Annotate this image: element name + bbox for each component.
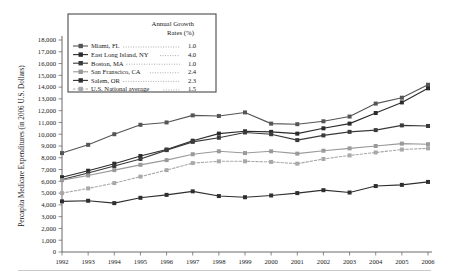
series-marker: [400, 183, 404, 187]
series-marker: [243, 151, 247, 155]
series-marker: [138, 175, 142, 179]
x-tick-label: 2004: [369, 258, 383, 265]
series-marker: [348, 153, 352, 157]
series-marker: [86, 173, 90, 177]
series-marker: [112, 164, 116, 168]
y-tick-label: 11,000: [38, 119, 57, 126]
y-tick-label: 2,000: [41, 225, 57, 232]
x-tick-label: 1994: [108, 258, 122, 265]
series-marker: [321, 149, 325, 153]
series-marker: [426, 86, 430, 90]
series-marker: [426, 124, 430, 128]
series-marker: [295, 138, 299, 142]
series-marker: [295, 191, 299, 195]
y-tick-label: 16,000: [38, 60, 57, 67]
series-marker: [138, 163, 142, 167]
legend-growth-rate: 2.4: [188, 68, 197, 75]
series-marker: [374, 111, 378, 115]
y-tick-label: 9,000: [41, 142, 57, 149]
series-marker: [112, 132, 116, 136]
series-marker: [191, 113, 195, 117]
y-tick-label: 4,000: [41, 201, 57, 208]
series-marker: [112, 181, 116, 185]
series-marker: [321, 126, 325, 130]
x-tick-label: 1995: [134, 258, 148, 265]
series-marker: [374, 102, 378, 106]
x-tick-label: 2003: [343, 258, 357, 265]
series-line: [62, 182, 428, 203]
series-marker: [191, 140, 195, 144]
legend-growth-rate: 1.5: [188, 85, 197, 92]
series-marker: [374, 128, 378, 132]
series-marker: [426, 142, 430, 146]
series-marker: [295, 122, 299, 126]
legend-header-line1: Annual Growth: [152, 20, 195, 27]
series-marker: [217, 136, 221, 140]
series-marker: [217, 132, 221, 136]
series-marker: [217, 159, 221, 163]
series-marker: [191, 189, 195, 193]
series-marker: [321, 119, 325, 123]
y-tick-label: 12,000: [38, 107, 57, 114]
series-marker: [426, 180, 430, 184]
series-marker: [138, 157, 142, 161]
series-group: [60, 83, 430, 205]
series-marker: [374, 150, 378, 154]
legend-series-label: U.S. National average: [91, 85, 149, 92]
series-marker: [217, 114, 221, 118]
series-marker: [217, 194, 221, 198]
x-tick-label: 1997: [186, 258, 200, 265]
series-marker: [400, 142, 404, 146]
series-marker: [60, 199, 64, 203]
x-tick-label: 2000: [265, 258, 279, 265]
footer-divider: [18, 270, 431, 271]
series-marker: [243, 159, 247, 163]
series-marker: [138, 123, 142, 127]
series-marker: [165, 193, 169, 197]
legend-sample-marker: [79, 87, 83, 91]
legend-series-label: Miami, FL: [91, 42, 120, 49]
x-tick-label: 1999: [238, 258, 252, 265]
series-marker: [269, 149, 273, 153]
series-marker: [426, 146, 430, 150]
series-marker: [321, 188, 325, 192]
series-marker: [295, 132, 299, 136]
series-marker: [348, 130, 352, 134]
y-tick-label: 13,000: [38, 95, 57, 102]
y-tick-label: 5,000: [41, 189, 57, 196]
medicare-expenditures-chart: 01,0002,0003,0004,0005,0006,0007,0008,00…: [0, 0, 449, 279]
y-tick-label: 7,000: [41, 166, 57, 173]
series-marker: [321, 133, 325, 137]
series-marker: [60, 151, 64, 155]
x-tick-label: 1998: [212, 258, 226, 265]
legend-sample-marker: [79, 52, 83, 56]
series-marker: [86, 186, 90, 190]
series-marker: [321, 157, 325, 161]
x-tick-label: 1996: [160, 258, 174, 265]
series-marker: [374, 184, 378, 188]
series-marker: [269, 122, 273, 126]
y-tick-label: 18,000: [38, 36, 57, 43]
series-marker: [295, 162, 299, 166]
y-tick-label: 17,000: [38, 48, 57, 55]
x-tick-label: 1993: [82, 258, 96, 265]
series-marker: [400, 96, 404, 100]
series-marker: [217, 149, 221, 153]
series-marker: [112, 201, 116, 205]
series-marker: [191, 152, 195, 156]
series-marker: [138, 196, 142, 200]
series-marker: [348, 191, 352, 195]
y-tick-label: 3,000: [41, 213, 57, 220]
series-marker: [269, 132, 273, 136]
y-axis-title: Percapita Medicare Expenditures (in 2006…: [18, 65, 26, 227]
series-marker: [165, 168, 169, 172]
series-marker: [348, 146, 352, 150]
y-tick-label: 10,000: [38, 131, 57, 138]
y-tick-label: 15,000: [38, 72, 57, 79]
series-marker: [165, 158, 169, 162]
series-marker: [243, 195, 247, 199]
legend-series-label: Boston, MA: [91, 60, 124, 67]
x-tick-label: 2002: [317, 258, 330, 265]
series-marker: [269, 193, 273, 197]
legend-series-label: San Franscico, CA: [91, 68, 141, 75]
